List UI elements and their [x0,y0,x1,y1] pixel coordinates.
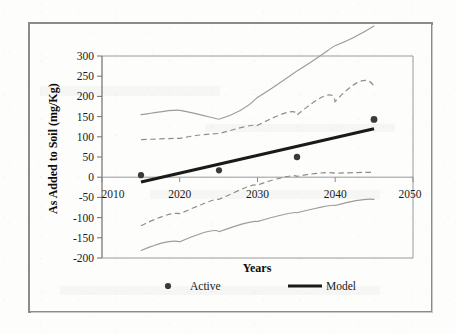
x-tick-label-2050: 2050 [399,188,422,200]
x-axis-title: Years [243,261,272,275]
upper-prediction-bound-curve [141,26,374,119]
data-point-2045 [371,116,378,123]
chart-page: 300 250 200 150 100 50 0 -50 -100 -150 -… [0,0,456,334]
y-tick-label-50: 50 [83,151,95,163]
chart-legend: Active Model [165,280,356,292]
legend-marker-active-icon [165,283,171,289]
y-tick-label-n50: -50 [79,191,95,203]
data-point-2035 [294,154,300,160]
y-axis [97,56,102,258]
plot-area-border [102,56,413,258]
y-tick-label-n200: -200 [73,252,94,264]
x-tick-label-2020: 2020 [168,188,191,200]
x-tick-label-2030: 2030 [246,188,269,200]
y-tick-label-n100: -100 [73,212,94,224]
y-tick-label-150: 150 [77,111,95,123]
legend-item-model[interactable]: Model [288,280,356,292]
data-point-2025 [216,167,222,173]
legend-label-active: Active [190,280,221,292]
chart-canvas: 300 250 200 150 100 50 0 -50 -100 -150 -… [0,0,456,334]
x-tick-label-2010: 2010 [102,188,125,200]
x-tick-label-2040: 2040 [324,188,347,200]
y-tick-label-250: 250 [77,70,95,82]
y-axis-title: As Added to Soil (mg/Kg) [46,83,60,214]
y-tick-label-200: 200 [77,90,95,102]
y-tick-label-300: 300 [77,50,95,62]
model-regression-line [141,129,374,182]
data-point-2015 [138,172,144,178]
y-tick-label-n150: -150 [73,232,94,244]
y-tick-label-100: 100 [77,131,95,143]
legend-label-model: Model [326,280,356,292]
y-tick-label-0: 0 [88,171,94,183]
legend-item-active[interactable]: Active [165,280,221,292]
lower-prediction-bound-curve [141,199,374,250]
